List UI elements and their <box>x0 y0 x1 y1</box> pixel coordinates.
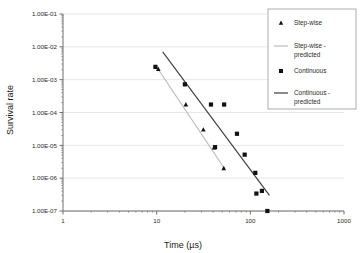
x-axis-tick-label: 1000 <box>337 217 351 224</box>
survival-rate-log-log-chart: 1.00E-011.00E-021.00E-031.00E-041.00E-05… <box>0 0 362 253</box>
y-axis-tick-label: 1.00E-06 <box>32 174 58 181</box>
data-point-square <box>260 189 264 193</box>
data-point-square <box>235 132 239 136</box>
y-axis-tick-label: 1.00E-07 <box>32 207 58 214</box>
data-point-square <box>253 171 257 175</box>
y-axis-tick-label: 1.00E-02 <box>32 43 58 50</box>
y-axis-title: Survival rate <box>5 85 15 135</box>
data-point-square <box>265 209 269 213</box>
legend-marker-square <box>279 69 283 73</box>
data-point-square <box>153 65 157 69</box>
x-axis-title: Time (µs) <box>164 240 202 250</box>
y-axis-tick-label: 1.00E-04 <box>32 109 58 116</box>
data-point-square <box>222 102 226 106</box>
x-axis-tick-label: 1 <box>61 217 65 224</box>
y-axis-tick-label: 1.00E-03 <box>32 76 58 83</box>
data-point-square <box>209 102 213 106</box>
data-point-square <box>254 191 258 195</box>
x-axis-tick-label: 100 <box>245 217 256 224</box>
legend-label: Step-wise <box>294 19 323 27</box>
data-point-square <box>213 145 217 149</box>
chart-figure: 1.00E-011.00E-021.00E-031.00E-041.00E-05… <box>0 0 362 253</box>
x-axis-tick-label: 10 <box>153 217 160 224</box>
legend-label: Continuous <box>294 67 326 74</box>
chart-legend: Step-wiseStep-wise -predictedContinuousC… <box>268 9 356 109</box>
y-axis-tick-label: 1.00E-01 <box>32 10 58 17</box>
data-point-square <box>243 153 247 157</box>
data-point-square <box>183 82 187 86</box>
y-axis-tick-label: 1.00E-05 <box>32 142 58 149</box>
